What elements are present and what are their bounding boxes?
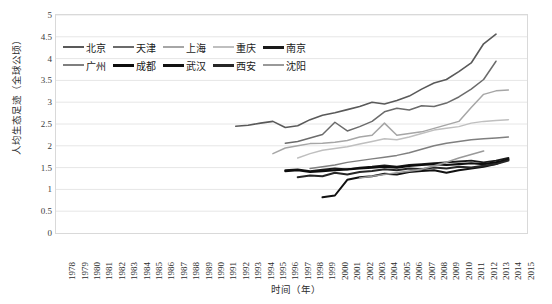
x-tick-label: 2007 (428, 262, 437, 280)
y-tick-label: 1 (26, 185, 52, 194)
legend-line-swatch (113, 46, 134, 48)
y-axis-tick-labels: 00.511.522.533.544.55 (22, 14, 52, 234)
x-tick-label: 1983 (130, 262, 139, 280)
y-tick-label: 4.5 (26, 33, 52, 42)
x-tick-label: 2013 (502, 262, 511, 280)
legend-item[interactable]: 西安 (213, 58, 256, 73)
legend-item[interactable]: 重庆 (213, 40, 256, 55)
legend-label: 上海 (186, 40, 206, 55)
x-tick-label: 1986 (167, 262, 176, 280)
x-tick-label: 1980 (93, 262, 102, 280)
x-tick-label: 1992 (242, 262, 251, 280)
x-tick-label: 2005 (403, 262, 412, 280)
legend-row: 北京天津上海重庆南京 (63, 38, 363, 56)
x-tick-label: 1995 (279, 262, 288, 280)
legend-line-swatch (163, 64, 184, 67)
x-tick-label: 1981 (105, 262, 114, 280)
x-tick-label: 1991 (229, 262, 238, 280)
x-tick-label: 2008 (440, 262, 449, 280)
legend-line-swatch (263, 64, 284, 66)
legend-row: 广州成都武汉西安沈阳 (63, 56, 363, 74)
x-axis-title: 时间（年） (0, 282, 552, 296)
x-tick-label: 1982 (118, 262, 127, 280)
legend-line-swatch (213, 46, 234, 48)
x-tick-label: 2015 (527, 262, 536, 280)
x-tick-label: 1979 (81, 262, 90, 280)
x-tick-label: 2001 (353, 262, 362, 280)
legend-item[interactable]: 北京 (63, 40, 106, 55)
legend-label: 天津 (136, 40, 156, 55)
y-tick-label: 0.5 (26, 207, 52, 216)
y-tick-label: 3 (26, 98, 52, 107)
ecological-footprint-line-chart: 人均生态足迹（全球公顷） 00.511.522.533.544.55 北京天津上… (0, 0, 552, 304)
x-tick-label: 1990 (217, 262, 226, 280)
legend-label: 重庆 (236, 40, 256, 55)
x-tick-label: 1978 (68, 262, 77, 280)
x-tick-label: 2006 (415, 262, 424, 280)
legend-line-swatch (63, 46, 84, 48)
legend-label: 广州 (86, 58, 106, 73)
legend-label: 西安 (236, 58, 256, 73)
x-tick-label: 2014 (514, 262, 523, 280)
x-tick-label: 1985 (155, 262, 164, 280)
x-tick-label: 1997 (304, 262, 313, 280)
x-tick-label: 1996 (291, 262, 300, 280)
legend-line-swatch (163, 46, 184, 48)
legend-line-swatch (213, 64, 234, 67)
legend-item[interactable]: 武汉 (163, 58, 206, 73)
y-tick-label: 1.5 (26, 164, 52, 173)
legend-line-swatch (63, 64, 84, 66)
x-tick-label: 1993 (254, 262, 263, 280)
legend-label: 武汉 (186, 58, 206, 73)
x-tick-label: 2012 (490, 262, 499, 280)
y-tick-label: 4 (26, 55, 52, 64)
x-tick-label: 2009 (452, 262, 461, 280)
x-tick-label: 1988 (192, 262, 201, 280)
x-tick-label: 2003 (378, 262, 387, 280)
legend-line-swatch (263, 46, 284, 49)
y-tick-label: 3.5 (26, 76, 52, 85)
x-tick-label: 1994 (267, 262, 276, 280)
x-tick-label: 1987 (180, 262, 189, 280)
x-tick-label: 2010 (465, 262, 474, 280)
legend-line-swatch (113, 64, 134, 67)
y-tick-label: 2 (26, 142, 52, 151)
x-tick-label: 1984 (143, 262, 152, 280)
y-tick-label: 0 (26, 229, 52, 238)
x-tick-label: 2002 (366, 262, 375, 280)
legend-item[interactable]: 沈阳 (263, 58, 306, 73)
series-line (273, 90, 509, 154)
legend: 北京天津上海重庆南京广州成都武汉西安沈阳 (63, 38, 363, 74)
x-tick-label: 2000 (341, 262, 350, 280)
legend-item[interactable]: 上海 (163, 40, 206, 55)
legend-label: 沈阳 (286, 58, 306, 73)
x-tick-label: 1999 (328, 262, 337, 280)
legend-item[interactable]: 成都 (113, 58, 156, 73)
legend-label: 南京 (286, 40, 306, 55)
legend-item[interactable]: 天津 (113, 40, 156, 55)
x-tick-label: 2004 (390, 262, 399, 280)
x-axis-tick-labels: 1978197919801981198219831984198519861987… (55, 236, 528, 284)
y-tick-label: 2.5 (26, 120, 52, 129)
x-tick-label: 1998 (316, 262, 325, 280)
y-tick-label: 5 (26, 11, 52, 20)
legend-item[interactable]: 南京 (263, 40, 306, 55)
legend-item[interactable]: 广州 (63, 58, 106, 73)
y-axis-title: 人均生态足迹（全球公顷） (9, 21, 23, 169)
x-tick-label: 1989 (205, 262, 214, 280)
legend-label: 成都 (136, 58, 156, 73)
x-tick-label: 2011 (477, 262, 486, 280)
legend-label: 北京 (86, 40, 106, 55)
